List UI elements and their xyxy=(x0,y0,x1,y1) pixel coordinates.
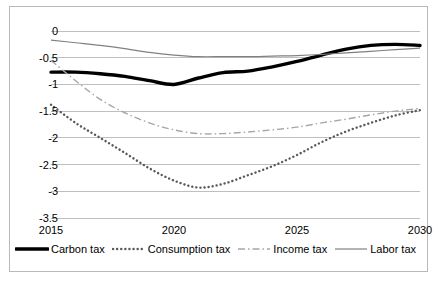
legend-swatch-icon xyxy=(237,244,271,254)
legend-swatch-icon xyxy=(15,244,49,254)
legend-item-consumption-tax[interactable]: Consumption tax xyxy=(112,244,238,255)
legend-item-income-tax[interactable]: Income tax xyxy=(237,244,334,255)
legend-item-carbon-tax[interactable]: Carbon tax xyxy=(15,244,112,255)
legend-swatch-icon xyxy=(334,244,368,254)
x-tick-label: 2030 xyxy=(408,225,432,236)
x-tick-label: 2015 xyxy=(39,225,63,236)
x-tick-label: 2020 xyxy=(162,225,186,236)
plot-area: 0-0.5-1-1.5-2-2.5-3-3.5 2015202020252030 xyxy=(10,7,429,273)
legend-label: Labor tax xyxy=(368,244,423,255)
legend-swatch-icon xyxy=(112,244,146,254)
legend-label: Carbon tax xyxy=(49,244,112,255)
chart-frame: 0-0.5-1-1.5-2-2.5-3-3.5 2015202020252030… xyxy=(9,6,428,272)
legend-label: Consumption tax xyxy=(146,244,238,255)
legend-label: Income tax xyxy=(271,244,334,255)
chart-legend: Carbon taxConsumption taxIncome taxLabor… xyxy=(19,238,419,260)
x-tick-label: 2025 xyxy=(285,225,309,236)
legend-item-labor-tax[interactable]: Labor tax xyxy=(334,244,423,255)
x-axis-tick-labels: 2015202020252030 xyxy=(10,7,429,273)
